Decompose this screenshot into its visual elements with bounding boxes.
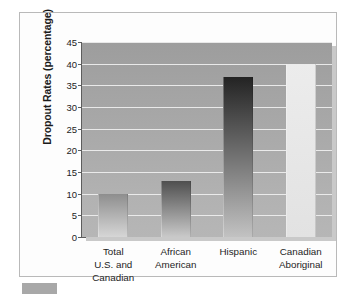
x-category-label: Hispanic	[207, 245, 270, 258]
x-category-label-line: African	[145, 245, 208, 258]
y-tick-label: 25	[55, 123, 77, 134]
y-tick-label: 30	[55, 102, 77, 113]
plot-shadow-bottom	[86, 237, 336, 241]
bar-african-american	[161, 181, 191, 237]
x-category-label-line: Hispanic	[207, 245, 270, 258]
y-axis-title: Dropout Rates (percentage)	[41, 0, 53, 167]
y-tick-mark	[78, 150, 82, 151]
x-category-label-line: Canadian	[270, 245, 333, 258]
bar-edge-right	[127, 194, 128, 237]
y-tick-label: 10	[55, 188, 77, 199]
y-tick-mark	[78, 172, 82, 173]
y-tick-mark	[78, 85, 82, 86]
y-tick-mark	[78, 215, 82, 216]
x-category-label: AfricanAmerican	[145, 245, 208, 271]
gridline	[82, 42, 332, 43]
bar-edge-right	[252, 77, 253, 237]
y-tick-label: 45	[55, 37, 77, 48]
x-category-label: CanadianAboriginal	[270, 245, 333, 271]
y-tick-label: 20	[55, 145, 77, 156]
plot-shadow-right	[332, 46, 336, 241]
y-tick-mark	[78, 194, 82, 195]
x-category-label-line: American	[145, 258, 208, 271]
y-tick-label: 40	[55, 58, 77, 69]
x-category-label-line: Canadian	[82, 271, 145, 284]
bar-edge-left	[98, 194, 99, 237]
corner-block-artifact	[22, 283, 57, 294]
x-category-label-line: Aboriginal	[270, 258, 333, 271]
bar-edge-right	[190, 181, 191, 237]
y-tick-label: 35	[55, 80, 77, 91]
y-tick-mark	[78, 42, 82, 43]
x-category-label-line: Total	[82, 245, 145, 258]
y-tick-label: 0	[55, 232, 77, 243]
y-tick-mark	[78, 64, 82, 65]
bar-edge-right	[315, 64, 316, 237]
y-tick-mark	[78, 237, 82, 238]
bar-edge-left	[223, 77, 224, 237]
bar-total-us-and-canadian	[98, 194, 128, 237]
x-category-label: TotalU.S. andCanadian	[82, 245, 145, 285]
bar-hispanic	[223, 77, 253, 237]
x-category-label-line: U.S. and	[82, 258, 145, 271]
y-tick-label: 5	[55, 210, 77, 221]
x-axis-category-labels: TotalU.S. andCanadianAfricanAmericanHisp…	[82, 245, 332, 291]
y-tick-label: 15	[55, 167, 77, 178]
y-tick-mark	[78, 129, 82, 130]
bar-edge-left	[286, 64, 287, 237]
bar-canadian-aboriginal	[286, 64, 316, 237]
figure-frame: Dropout Rates (percentage) 0510152025303…	[19, 12, 337, 277]
bar-edge-left	[161, 181, 162, 237]
y-tick-mark	[78, 107, 82, 108]
y-axis-tick-labels: 051015202530354045	[53, 42, 77, 237]
plot-area	[82, 42, 332, 237]
